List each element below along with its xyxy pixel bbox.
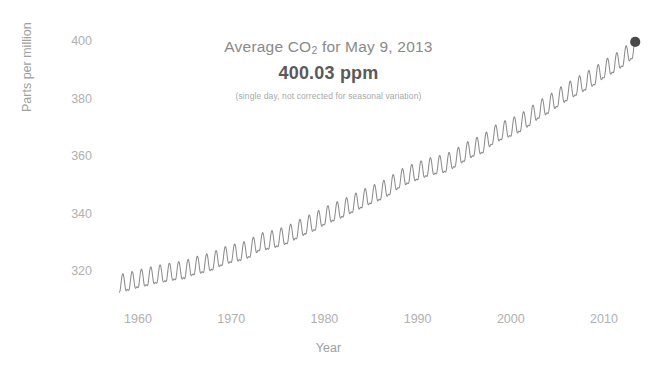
plot-area: [0, 0, 657, 375]
keeling-curve-chart: Average CO2 for May 9, 2013 400.03 ppm (…: [0, 0, 657, 375]
final-data-point-marker: [630, 37, 640, 47]
co2-series-line: [119, 39, 635, 292]
